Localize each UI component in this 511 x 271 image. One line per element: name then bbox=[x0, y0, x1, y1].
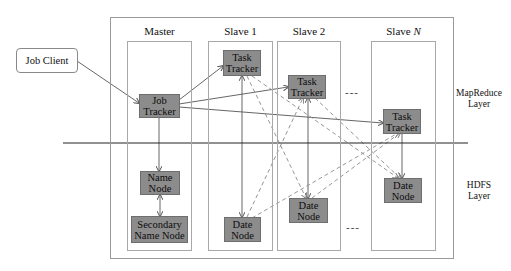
name-node: NameNode bbox=[140, 171, 180, 195]
data-node-slave2: DateNode bbox=[289, 198, 328, 223]
node-line: Name bbox=[147, 172, 172, 183]
slave1-label: Slave 1 bbox=[208, 25, 273, 37]
node-line: Tracker bbox=[143, 106, 175, 117]
data-node-slave1: DateNode bbox=[224, 217, 261, 242]
node-line: Node bbox=[147, 183, 172, 194]
node-line: Task bbox=[386, 111, 418, 122]
master-label: Master bbox=[127, 25, 192, 37]
job-client-label: Job Client bbox=[26, 55, 69, 66]
node-line: Date bbox=[231, 219, 254, 230]
task-tracker-slaveN: TaskTracker bbox=[383, 109, 421, 134]
hadoop-architecture-diagram: Master Slave 1 Slave 2 Slave N Job Clien… bbox=[0, 0, 511, 271]
slave2-label: Slave 2 bbox=[277, 25, 341, 37]
layer-label-line: MapReduce bbox=[448, 88, 510, 99]
node-line: Node bbox=[297, 211, 320, 222]
layer-label-line: Layer bbox=[448, 99, 510, 110]
node-line: Date bbox=[297, 200, 320, 211]
node-line: Task bbox=[291, 76, 323, 87]
secondary-name-node: SecondaryName Node bbox=[131, 216, 188, 243]
job-tracker-node: JobTracker bbox=[139, 94, 180, 118]
ellipsis-top: --- bbox=[345, 86, 359, 98]
node-line: Tracker bbox=[291, 87, 323, 98]
data-node-slaveN: DateNode bbox=[384, 178, 422, 203]
node-line: Secondary bbox=[134, 219, 184, 230]
slaveN-column bbox=[371, 41, 436, 251]
slaveN-label-var: N bbox=[413, 25, 420, 37]
job-client: Job Client bbox=[16, 48, 78, 73]
layer-label-line: HDFS bbox=[448, 180, 510, 191]
node-line: Node bbox=[392, 191, 415, 202]
node-line: Date bbox=[392, 180, 415, 191]
task-tracker-slave2: TaskTracker bbox=[288, 75, 326, 99]
node-line: Node bbox=[231, 230, 254, 241]
node-line: Job bbox=[143, 95, 175, 106]
slaveN-label-prefix: Slave bbox=[386, 25, 413, 37]
layer-label-line: Layer bbox=[448, 191, 510, 202]
task-tracker-slave1: TaskTracker bbox=[223, 50, 261, 76]
slaveN-label: Slave N bbox=[371, 25, 436, 37]
ellipsis-bottom: --- bbox=[346, 221, 360, 233]
node-line: Name Node bbox=[134, 230, 184, 241]
mapreduce-layer-label: MapReduce Layer bbox=[448, 88, 510, 110]
node-line: Task bbox=[226, 52, 258, 63]
hdfs-layer-label: HDFS Layer bbox=[448, 180, 510, 202]
node-line: Tracker bbox=[386, 122, 418, 133]
node-line: Tracker bbox=[226, 63, 258, 74]
